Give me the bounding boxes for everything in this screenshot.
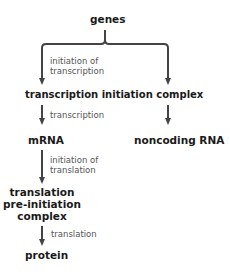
node-noncoding-rna: noncoding RNA: [134, 134, 224, 146]
label-translation: translation: [51, 229, 97, 239]
node-transcription-initiation-complex: transcription initiation complex: [25, 89, 203, 101]
arrowhead-transcription: [39, 118, 45, 125]
label-init-translation-1: initiation of: [50, 155, 98, 165]
arrowhead-translation: [39, 239, 45, 246]
arrowhead-right: [165, 78, 171, 85]
node-translation-preinitiation-line1: translation: [2, 186, 82, 198]
node-genes: genes: [90, 13, 125, 25]
label-init-transcription-2: transcription: [50, 66, 104, 76]
node-protein: protein: [25, 249, 68, 261]
arrowhead-left: [39, 78, 45, 85]
node-translation-preinitiation-line2: pre-initiation: [2, 198, 82, 210]
label-init-transcription-1: initiation of: [50, 56, 98, 66]
node-mrna: mRNA: [28, 134, 64, 146]
arrowhead-noncoding: [165, 118, 171, 125]
node-translation-preinitiation-line3: complex: [2, 210, 82, 222]
label-transcription: transcription: [50, 110, 104, 120]
label-init-translation-2: translation: [50, 165, 96, 175]
arrowhead-init-translation: [39, 177, 45, 184]
